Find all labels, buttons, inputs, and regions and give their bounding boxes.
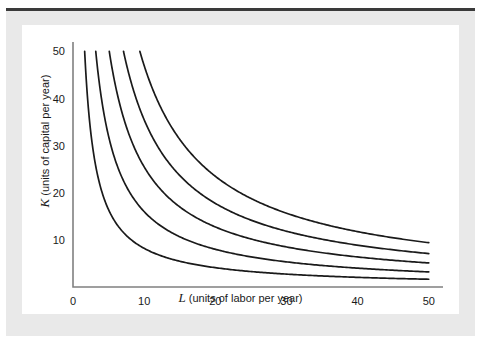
isoquant-chart: 102030405001020304050 K (units of capita… [22, 25, 459, 314]
isoquant-curve [85, 51, 429, 279]
figure-panel: 102030405001020304050 K (units of capita… [22, 25, 459, 314]
plot-area: 102030405001020304050 [22, 25, 459, 314]
isoquant-curve [109, 51, 428, 263]
y-axis-units: (units of capital per year) [39, 75, 51, 199]
y-axis-variable: K [37, 199, 52, 208]
y-tick-label: 30 [53, 140, 65, 152]
x-axis-variable: L [178, 290, 185, 305]
isoquant-curve [140, 51, 429, 242]
figure-page: 102030405001020304050 K (units of capita… [0, 0, 481, 340]
x-axis-title: L (units of labor per year) [22, 290, 459, 306]
y-tick-label: 10 [53, 234, 65, 246]
isoquant-curve [124, 51, 429, 253]
axis-lines [73, 42, 443, 287]
x-axis-units: (units of labor per year) [186, 292, 303, 304]
y-tick-label: 40 [53, 93, 65, 105]
y-axis-title: K (units of capital per year) [37, 56, 53, 226]
isoquant-curve [96, 51, 429, 271]
y-tick-label: 50 [53, 45, 65, 57]
y-tick-label: 20 [53, 187, 65, 199]
